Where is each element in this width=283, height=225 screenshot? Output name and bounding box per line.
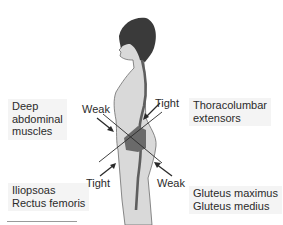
arrow-lower-left <box>100 163 116 176</box>
label-line: extensors <box>193 112 267 125</box>
label-line: abdominal <box>12 113 63 126</box>
arrow-upper-left <box>97 118 114 132</box>
arrow-lower-right <box>154 162 172 176</box>
label-line: Gluteus maximus <box>193 187 278 200</box>
label-line: Thoracolumbar <box>193 99 267 112</box>
label-thoracolumbar-extensors: Thoracolumbar extensors <box>189 98 271 126</box>
divider-rule <box>7 221 77 222</box>
tag-lower-weak: Weak <box>157 177 185 189</box>
lower-crossed-diagram: Deep abdominal muscles Thoracolumbar ext… <box>0 0 283 225</box>
label-hip-flexors: Iliopsoas Rectus femoris <box>8 183 89 211</box>
tag-upper-tight: Tight <box>155 97 179 109</box>
tag-upper-weak: Weak <box>82 103 110 115</box>
label-line: Iliopsoas <box>12 184 85 197</box>
label-line: muscles <box>12 125 63 138</box>
label-gluteals: Gluteus maximus Gluteus medius <box>189 186 282 214</box>
label-deep-abdominal-muscles: Deep abdominal muscles <box>8 99 67 140</box>
label-line: Rectus femoris <box>12 197 85 210</box>
label-line: Deep <box>12 100 63 113</box>
label-line: Gluteus medius <box>193 200 278 213</box>
tag-lower-tight: Tight <box>86 177 110 189</box>
